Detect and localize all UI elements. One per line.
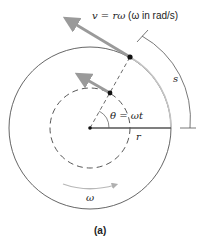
center-point <box>88 126 92 130</box>
radius-label: r <box>136 131 142 142</box>
omega-label: ω <box>86 192 94 203</box>
arc-label: s <box>173 73 178 84</box>
inner-point <box>108 91 113 96</box>
inner-velocity-arrow <box>82 77 110 93</box>
arc-length-bracket <box>142 36 190 128</box>
outer-velocity-arrow <box>70 21 130 57</box>
rotation-arrow <box>63 184 115 189</box>
velocity-label: v = rω (ω in rad/s) <box>92 10 178 21</box>
arc-tick-top <box>137 30 148 42</box>
caption: (a) <box>94 225 106 236</box>
angle-label: θ = ωt <box>110 110 144 121</box>
angle-arc <box>99 111 109 128</box>
outer-point <box>127 54 132 59</box>
circular-motion-diagram: v = rω (ω in rad/s) θ = ωt r s ω (a) <box>0 0 206 237</box>
